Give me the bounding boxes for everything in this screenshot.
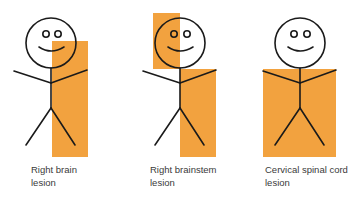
label-line-1: Right brainstem xyxy=(150,163,217,176)
label-line-2: lesion xyxy=(265,176,348,189)
figure-right-brainstem xyxy=(143,13,216,157)
label-right-brainstem: Right brainstem lesion xyxy=(150,163,217,189)
label-line-1: Right brain xyxy=(31,163,77,176)
label-right-brain: Right brain lesion xyxy=(31,163,77,189)
figure-right-brain xyxy=(14,18,88,157)
head-icon xyxy=(275,18,325,68)
affected-area-right-body xyxy=(180,69,216,157)
label-line-2: lesion xyxy=(31,176,77,189)
label-line-2: lesion xyxy=(150,176,217,189)
label-line-1: Cervical spinal cord xyxy=(265,163,348,176)
label-cervical-spinal-cord: Cervical spinal cord lesion xyxy=(265,163,348,189)
figure-cervical-spinal-cord xyxy=(263,18,336,157)
